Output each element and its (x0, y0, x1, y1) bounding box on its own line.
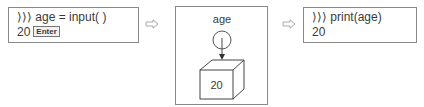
input-code-line: ⟩⟩⟩ age = input( ) (17, 10, 106, 25)
variable-box-diagram: age 20 (176, 7, 269, 106)
variable-name-label: age (213, 13, 231, 25)
input-code-box: ⟩⟩⟩ age = input( ) 20Enter (8, 7, 139, 43)
flow-arrow-icon (282, 19, 296, 29)
memory-diagram-box: age 20 (175, 6, 268, 105)
print-code-line: ⟩⟩⟩ print(age) (312, 10, 382, 25)
down-arrow-icon (219, 54, 225, 60)
flow-arrow-icon (145, 19, 159, 29)
enter-key-icon: Enter (33, 26, 59, 37)
input-value: 20 (17, 25, 30, 39)
stored-value: 20 (210, 79, 222, 91)
print-output-line: 20 (312, 25, 325, 40)
input-value-line: 20Enter (17, 25, 60, 40)
print-code-box: ⟩⟩⟩ print(age) 20 (303, 7, 417, 43)
